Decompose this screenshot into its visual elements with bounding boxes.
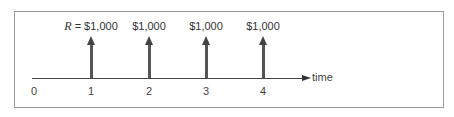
cash-flow-arrow-3	[205, 40, 208, 78]
cash-flow-label-4: $1,000	[246, 20, 280, 33]
cash-flow-arrow-4	[262, 40, 265, 78]
payment-amount: $1,000	[84, 20, 118, 32]
cash-flow-arrow-1	[90, 40, 93, 78]
tick-label-0: 0	[24, 85, 44, 98]
cash-flow-label-1: R = $1,000	[64, 20, 118, 33]
cash-flow-arrow-2	[148, 40, 151, 78]
tick-label-3: 3	[196, 85, 216, 98]
arrow-up-icon	[145, 36, 153, 45]
cash-flow-label-3: $1,000	[189, 20, 223, 33]
equals-sign: =	[72, 20, 85, 32]
time-axis	[32, 78, 304, 79]
arrow-up-icon	[202, 36, 210, 45]
tick-label-1: 1	[81, 85, 101, 98]
tick-label-2: 2	[139, 85, 159, 98]
arrow-up-icon	[259, 36, 267, 45]
arrow-up-icon	[87, 36, 95, 45]
time-axis-arrowhead-icon	[302, 75, 311, 81]
tick-label-4: 4	[253, 85, 273, 98]
time-axis-label: time	[312, 71, 333, 84]
cash-flow-label-2: $1,000	[132, 20, 166, 33]
